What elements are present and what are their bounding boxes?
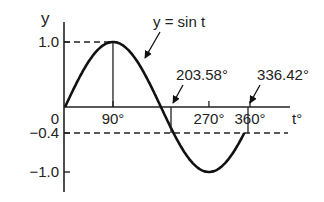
x-tick-label: 90°	[102, 110, 125, 127]
x-axis-label: t°	[292, 110, 302, 127]
y-axis-label: y	[41, 9, 50, 28]
x-tick-label: 270°	[193, 110, 224, 127]
y-tick-label: −1.0	[29, 163, 59, 180]
x-tick-label: 360°	[234, 110, 265, 127]
annotation-label: 203.58°	[176, 66, 228, 83]
axes	[64, 22, 290, 192]
annotation-arrow	[250, 85, 260, 103]
annotation-label: 336.42°	[257, 66, 309, 83]
annotations: 203.58°336.42°	[145, 32, 309, 133]
sine-chart: 1.0−0.4−1.0090°270°360° 203.58°336.42° y…	[0, 0, 324, 202]
y-tick-label: 1.0	[38, 33, 59, 50]
curve-label-arrow	[145, 32, 160, 58]
annotation-arrow	[173, 85, 183, 103]
curve-label: y = sin t	[153, 13, 206, 30]
origin-label: 0	[51, 110, 59, 127]
